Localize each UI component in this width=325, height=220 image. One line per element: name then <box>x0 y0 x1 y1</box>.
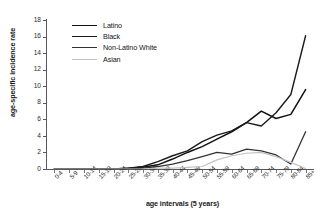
y-axis-ticks: 024681012141618 <box>0 0 46 190</box>
legend-swatch-icon <box>72 59 97 60</box>
series-line-asian <box>54 152 305 169</box>
y-tick-label: 8 <box>37 99 41 105</box>
legend-swatch-icon <box>72 25 97 26</box>
legend-label: Black <box>103 32 120 41</box>
y-tick <box>43 37 46 38</box>
legend-swatch-icon <box>72 47 97 48</box>
y-tick <box>43 119 46 120</box>
series-line-non-latino-white <box>54 132 305 169</box>
y-tick <box>43 70 46 71</box>
y-tick <box>43 20 46 21</box>
legend-label: Non-Latino White <box>103 43 157 52</box>
y-tick-label: 16 <box>34 33 41 39</box>
y-tick <box>43 136 46 137</box>
y-tick <box>43 53 46 54</box>
legend-item-latino[interactable]: Latino <box>72 20 157 31</box>
legend-item-asian[interactable]: Asian <box>72 54 157 65</box>
y-tick-label: 0 <box>37 166 41 172</box>
y-tick <box>43 86 46 87</box>
y-tick <box>43 103 46 104</box>
y-tick-label: 4 <box>37 133 41 139</box>
legend-item-non-latino-white[interactable]: Non-Latino White <box>72 42 157 53</box>
y-tick-label: 10 <box>34 83 41 89</box>
y-tick <box>43 169 46 170</box>
chart-title <box>0 0 325 4</box>
legend-swatch-icon <box>72 36 97 37</box>
y-tick-label: 18 <box>34 17 41 23</box>
y-tick-label: 2 <box>37 149 41 155</box>
legend-label: Asian <box>103 55 120 64</box>
x-axis-title: age intervals (5 years) <box>40 199 325 208</box>
y-tick-label: 6 <box>37 116 41 122</box>
series-line-latino <box>54 90 305 169</box>
legend-item-black[interactable]: Black <box>72 31 157 42</box>
y-tick-label: 14 <box>34 50 41 56</box>
chart-legend: LatinoBlackNon-Latino WhiteAsian <box>72 20 157 65</box>
y-tick <box>43 152 46 153</box>
y-tick-label: 12 <box>34 66 41 72</box>
chart-figure: age-specific incidence rate age interval… <box>0 0 325 220</box>
legend-label: Latino <box>103 21 122 30</box>
